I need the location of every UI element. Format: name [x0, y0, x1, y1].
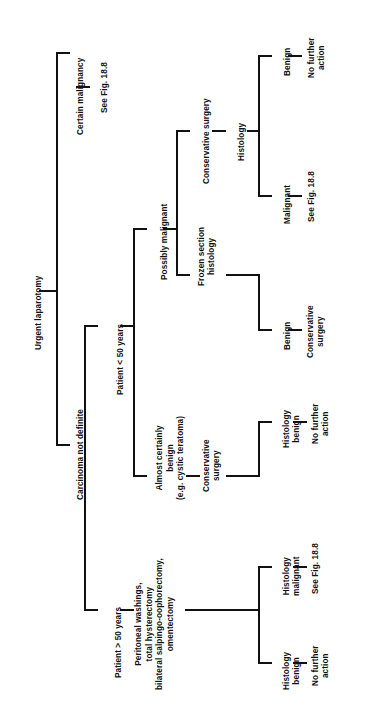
- connector-to-certain-malignancy: [56, 52, 70, 54]
- node-see-fig-malignant: See Fig. 18.8: [307, 171, 317, 222]
- connector-to-histology-benign-low: [258, 662, 272, 664]
- connector-to-possibly-malignant: [133, 228, 147, 230]
- node-benign-top: Benign: [283, 48, 293, 76]
- node-possibly-malignant: Possibly malignant: [160, 204, 170, 280]
- node-patient-under-50: Patient < 50 years: [116, 324, 126, 395]
- connector-to-conservative-surgery-top: [176, 130, 190, 132]
- connector-frozen-section-to-benign: [226, 274, 258, 276]
- connector-almost-benign-to-surgery: [186, 475, 200, 477]
- connector-benign-top-to-action: [288, 55, 302, 57]
- node-radical-surgery: Peritoneal washings, total hysterectomy …: [134, 558, 176, 690]
- connector-patient-over-50-to-surgery: [120, 609, 134, 611]
- node-conservative-surgery-frozen: Conservative surgery: [306, 305, 326, 358]
- node-patient-over-50: Patient > 50 years: [114, 607, 124, 678]
- node-histology: Histology: [237, 123, 247, 161]
- connector-histology-spine: [258, 55, 260, 197]
- connector-root-stem: [39, 290, 57, 292]
- connector-benign-branch-spine: [258, 421, 260, 477]
- connector-conservative-surgery-to-histology: [212, 130, 226, 132]
- connector-possibly-malignant-stem: [163, 228, 177, 230]
- connector-to-almost-certainly-benign: [133, 475, 147, 477]
- connector-to-histology-benign-mid: [258, 421, 272, 423]
- connector-carcinoma-spine: [84, 325, 86, 611]
- connector-to-patient-over-50: [84, 609, 98, 611]
- connector-to-histology-malignant-low: [258, 566, 272, 568]
- node-histology-malignant-low: Histology malignant: [282, 556, 302, 596]
- node-certain-malignancy: Certain malignancy: [76, 58, 86, 135]
- connector-patient-under-50-stem: [120, 325, 134, 327]
- connector-to-malignant: [258, 195, 272, 197]
- node-no-further-action-top: No further action: [307, 37, 327, 78]
- connector-under-50-spine: [133, 228, 135, 477]
- connector-root-spine: [56, 52, 58, 446]
- node-malignant: Malignant: [283, 185, 293, 224]
- node-histology-benign-low: Histology benign: [282, 652, 302, 690]
- connector-frozen-benign-spine: [258, 274, 260, 330]
- connector-histology-stem: [247, 130, 260, 132]
- node-urgent-laparotomy: Urgent laparotomy: [34, 276, 44, 351]
- flowchart-canvas: Urgent laparotomy Certain malignancy See…: [0, 0, 366, 708]
- connector-histology-benign-mid-to-action: [293, 421, 307, 423]
- connector-to-frozen-section-histology: [176, 274, 190, 276]
- connector-histology-benign-low-to-action: [293, 662, 307, 664]
- connector-histology-malignant-low-to-fig: [293, 566, 307, 568]
- connector-over-50-histology-spine: [258, 566, 260, 664]
- connector-to-patient-under-50: [84, 325, 98, 327]
- connector-to-carcinoma-not-definite: [56, 444, 70, 446]
- connector-possibly-malignant-spine: [176, 130, 178, 276]
- connector-certain-malignancy-to-fig: [76, 86, 90, 88]
- node-frozen-section-histology: Frozen section histology: [197, 227, 217, 286]
- connector-to-benign-frozen: [258, 329, 272, 331]
- node-conservative-surgery-top: Conservative surgery: [202, 98, 212, 184]
- node-see-fig-histology-malignant: See Fig. 18.8: [311, 543, 321, 594]
- connector-malignant-to-fig: [288, 195, 302, 197]
- node-histology-benign-mid: Histology benign: [282, 410, 302, 448]
- node-no-further-action-mid: No further action: [311, 403, 331, 444]
- node-no-further-action-low: No further action: [311, 645, 331, 686]
- connector-surgery-benign-branch-stem: [226, 475, 258, 477]
- node-almost-certainly-benign: Almost certainly benign (e.g. cystic ter…: [155, 416, 187, 500]
- connector-radical-surgery-stem: [185, 609, 258, 611]
- node-certain-malignancy-action: See Fig. 18.8: [100, 62, 110, 113]
- node-benign-frozen: Benign: [283, 322, 293, 350]
- connector-benign-frozen-to-surgery: [288, 329, 302, 331]
- connector-to-benign-top: [258, 55, 272, 57]
- node-conservative-surgery-benign-branch: Conservative surgery: [202, 439, 222, 492]
